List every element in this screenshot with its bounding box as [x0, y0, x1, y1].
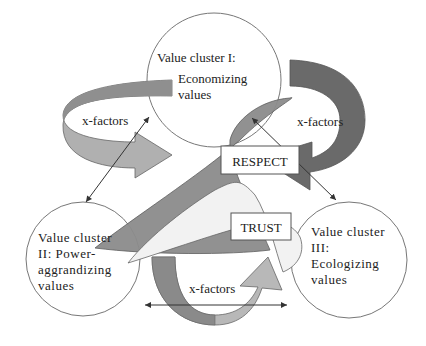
respect-label: RESPECT	[232, 154, 288, 169]
respect-box: RESPECT	[221, 146, 299, 174]
svg-text:values: values	[311, 272, 347, 287]
svg-text:aggrandizing: aggrandizing	[38, 262, 112, 277]
svg-text:III:: III:	[311, 240, 330, 255]
trust-box: TRUST	[231, 213, 291, 240]
svg-text:Economizing: Economizing	[178, 71, 248, 86]
svg-text:values: values	[178, 87, 211, 102]
svg-text:Value cluster: Value cluster	[38, 230, 112, 245]
svg-text:II: Power-: II: Power-	[38, 246, 96, 261]
svg-text:Value cluster I:: Value cluster I:	[157, 50, 236, 65]
svg-text:values: values	[38, 278, 74, 293]
x-factors-arrow-top-left	[63, 80, 172, 178]
x-factors-label-bottom: x-factors	[189, 281, 235, 296]
trust-label: TRUST	[240, 220, 281, 235]
x-factors-label-top-left: x-factors	[82, 113, 128, 128]
svg-text:Value cluster: Value cluster	[311, 224, 385, 239]
svg-text:Ecologizing: Ecologizing	[311, 256, 379, 271]
x-factors-label-right: x-factors	[297, 114, 343, 129]
value-clusters-diagram: RESPECT TRUST x-factors x-factors x-fact…	[0, 0, 426, 346]
